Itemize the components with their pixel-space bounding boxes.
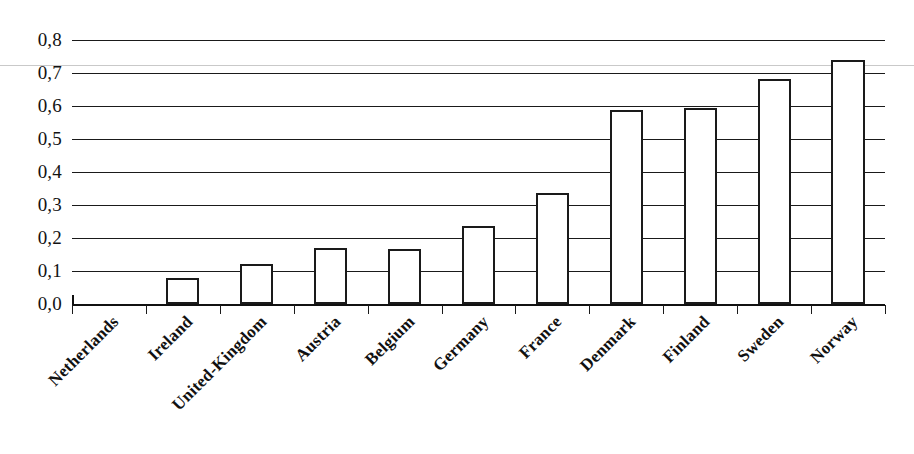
bar[interactable] xyxy=(314,248,347,304)
gridline-faint xyxy=(0,65,914,66)
y-axis-tick-label: 0,1 xyxy=(0,260,62,282)
x-axis-category-label: Finland xyxy=(659,312,714,367)
y-axis-tick-label: 0,6 xyxy=(0,95,62,117)
x-axis-category-label: Belgium xyxy=(361,312,419,370)
x-axis-tick xyxy=(811,305,812,314)
chart-page: 0,80,70,60,50,40,30,20,10,0 NetherlandsI… xyxy=(0,0,914,454)
plot-area xyxy=(72,40,885,304)
x-axis-category-label: Norway xyxy=(806,312,862,368)
x-axis-tick xyxy=(220,305,221,314)
gridline xyxy=(72,73,885,74)
gridline xyxy=(72,40,885,41)
axis-baseline xyxy=(72,304,885,306)
y-axis-tick-labels: 0,80,70,60,50,40,30,20,10,0 xyxy=(0,0,62,454)
bar[interactable] xyxy=(758,79,791,304)
x-axis-tick xyxy=(146,305,147,314)
x-axis-tick xyxy=(663,305,664,314)
y-axis-tick-label: 0,3 xyxy=(0,194,62,216)
bar[interactable] xyxy=(536,193,569,304)
x-axis-category-label: France xyxy=(516,312,567,363)
x-axis-category-label: Austria xyxy=(291,312,345,366)
bar[interactable] xyxy=(610,110,643,304)
bar[interactable] xyxy=(831,60,864,304)
bar[interactable] xyxy=(388,249,421,304)
x-axis-tick xyxy=(589,305,590,314)
x-axis-tick xyxy=(368,305,369,314)
y-axis-tick-label: 0,4 xyxy=(0,161,62,183)
x-axis-category-label: Sweden xyxy=(734,312,788,366)
x-axis-category-label: Ireland xyxy=(144,312,197,365)
x-axis-tick xyxy=(294,305,295,314)
x-axis-category-label: Germany xyxy=(429,312,493,376)
bar[interactable] xyxy=(462,226,495,304)
x-axis-category-label: Denmark xyxy=(577,312,641,376)
y-axis-tick-label: 0,0 xyxy=(0,293,62,315)
x-axis-tick xyxy=(442,305,443,314)
y-axis-tick-label: 0,8 xyxy=(0,29,62,51)
x-axis-tick xyxy=(72,305,73,314)
y-axis-tick-label: 0,5 xyxy=(0,128,62,150)
x-axis-tick xyxy=(737,305,738,314)
x-axis-tick xyxy=(515,305,516,314)
bar[interactable] xyxy=(684,108,717,304)
bar[interactable] xyxy=(166,278,199,304)
bar[interactable] xyxy=(240,264,273,304)
x-axis-tick xyxy=(885,305,886,314)
y-axis-tick-label: 0,2 xyxy=(0,227,62,249)
